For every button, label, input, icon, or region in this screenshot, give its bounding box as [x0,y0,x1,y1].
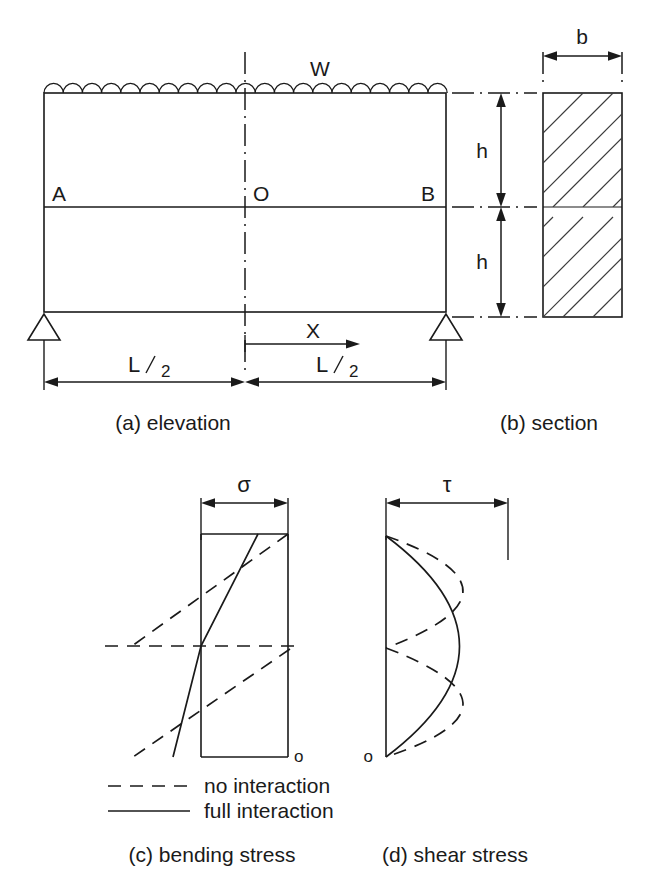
stress-label-tau: τ [443,472,452,497]
span-left-numerator: L [128,352,140,377]
section-label-h-upper: h [476,139,488,162]
shear-full-interaction-curve [386,536,460,757]
shear-no-interaction-upper [386,536,463,648]
shear-origin-label: o [364,747,373,766]
point-label-a: A [52,182,66,205]
bending-origin-label: o [294,747,303,766]
support-right [430,314,462,340]
figure-canvas: W A O B X L 2 L 2 (a) elevation [0,0,668,891]
span-right-numerator: L [316,352,328,377]
dimension-tau [386,498,508,508]
shear-no-interaction-lower [386,648,463,757]
section-label-h-lower: h [476,250,488,273]
dimension-depth-lower [496,207,506,317]
axis-label-x: X [306,319,320,342]
figure-root: W A O B X L 2 L 2 (a) elevation [0,0,668,891]
stress-label-sigma: σ [237,472,251,497]
caption-b: (b) section [500,411,598,434]
point-label-o: O [253,182,269,205]
span-label-left: L 2 [128,352,171,381]
dimension-depth-upper [496,93,506,207]
caption-d: (d) shear stress [382,843,528,866]
support-left [28,314,60,340]
legend: no interaction full interaction [108,774,334,822]
bending-no-interaction-lower [133,649,290,757]
dimension-sigma [201,498,288,508]
panel-d-shear-stress: τ o (d) shear stress [364,472,528,866]
section-hatch-upper [543,93,622,207]
span-right-denominator: 2 [349,362,358,381]
caption-a: (a) elevation [115,411,231,434]
legend-label-full-interaction: full interaction [204,799,334,822]
span-label-right: L 2 [316,352,359,381]
legend-label-no-interaction: no interaction [204,774,330,797]
section-hatch-lower [543,217,622,317]
caption-c: (c) bending stress [129,843,296,866]
dimension-span-left [44,377,245,387]
legend-item-no-interaction: no interaction [108,774,330,797]
point-label-b: B [421,182,435,205]
dimension-width-b [543,51,622,61]
section-label-b: b [576,25,588,48]
load-label-w: W [310,57,330,80]
panel-a-elevation: W A O B X L 2 L 2 (a) elevation [28,52,462,434]
span-left-denominator: 2 [161,362,170,381]
x-axis-arrow [245,335,360,352]
panel-b-section: b h h (b) section [452,25,622,434]
dimension-span-right [245,377,446,387]
legend-item-full-interaction: full interaction [108,799,334,822]
